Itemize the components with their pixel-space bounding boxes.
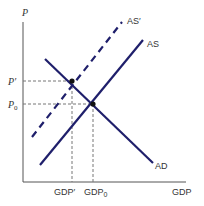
p-prime-label: P′: [7, 76, 17, 87]
ad-curve: [45, 59, 153, 163]
ad-label: AD: [155, 161, 168, 171]
initial-equilibrium-point: [90, 101, 95, 106]
y-axis-label: P: [21, 7, 28, 18]
gdp-prime-label: GDP′: [54, 187, 76, 197]
as-prime-label: AS′: [127, 16, 141, 26]
new-equilibrium-point: [69, 78, 74, 83]
x-axis-label: GDP: [172, 187, 192, 197]
p-zero-label: P0: [7, 99, 18, 112]
ad-as-chart: P P′ P0 GDP′ GDP0 GDP AS′ AS AD: [0, 0, 204, 206]
as-label: AS: [147, 39, 159, 49]
gdp-zero-label: GDP0: [84, 187, 108, 198]
